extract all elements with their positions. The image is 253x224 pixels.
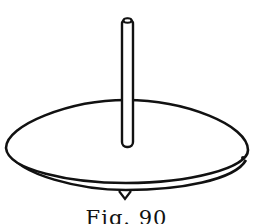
disc-and-rod-drawing [0,0,253,224]
figure-caption: Fig. 90 [0,207,253,224]
figure-illustration: Fig. 90 [0,0,253,224]
vertical-rod [122,19,133,147]
rod-top-opening [124,18,132,22]
rim-notch [241,156,245,160]
spindle-point [119,191,131,199]
